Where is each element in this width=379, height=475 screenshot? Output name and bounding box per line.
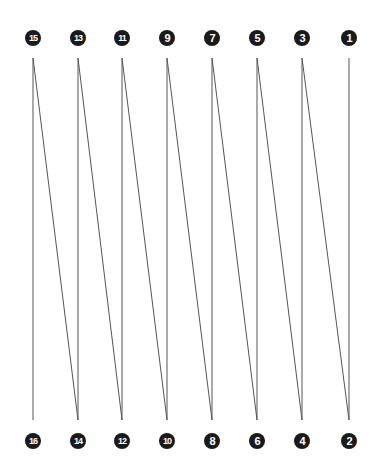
point-marker-11: 11 <box>114 30 130 46</box>
point-marker-9: 9 <box>159 30 175 46</box>
point-marker-10: 10 <box>159 433 175 449</box>
point-marker-13: 13 <box>70 30 86 46</box>
point-marker-8: 8 <box>204 433 220 449</box>
point-marker-2: 2 <box>341 433 357 449</box>
point-marker-3: 3 <box>294 30 310 46</box>
path-segment <box>122 58 167 420</box>
point-marker-1: 1 <box>341 30 357 46</box>
point-marker-6: 6 <box>249 433 265 449</box>
point-marker-7: 7 <box>204 30 220 46</box>
path-segment <box>78 58 122 420</box>
point-marker-14: 14 <box>70 433 86 449</box>
path-segment <box>302 58 349 420</box>
point-marker-16: 16 <box>25 433 41 449</box>
path-segment <box>33 58 78 420</box>
path-segment <box>212 58 257 420</box>
path-segment <box>257 58 302 420</box>
path-segment <box>167 58 212 420</box>
point-marker-4: 4 <box>294 433 310 449</box>
point-marker-15: 15 <box>25 30 41 46</box>
point-marker-12: 12 <box>114 433 130 449</box>
connecting-lines <box>0 0 379 475</box>
point-marker-5: 5 <box>249 30 265 46</box>
zigzag-diagram: 12345678910111213141516 <box>0 0 379 475</box>
